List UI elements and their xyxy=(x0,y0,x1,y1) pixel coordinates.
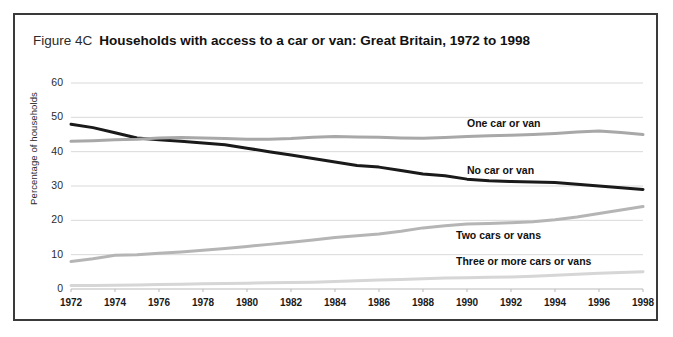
y-axis-tick-label: 40 xyxy=(37,145,63,157)
y-axis-tick-label: 20 xyxy=(37,213,63,225)
x-axis-tick-label: 1996 xyxy=(579,297,619,308)
y-axis-tick-label: 0 xyxy=(37,282,63,294)
series-label: No car or van xyxy=(467,164,534,176)
y-axis-tick-label: 10 xyxy=(37,248,63,260)
x-axis-tick-label: 1982 xyxy=(271,297,311,308)
y-axis-tick-label: 60 xyxy=(37,76,63,88)
x-axis-tick-label: 1994 xyxy=(535,297,575,308)
series-line xyxy=(71,207,643,262)
series-label: One car or van xyxy=(467,117,541,129)
series-label: Three or more cars or vans xyxy=(456,255,591,267)
x-axis-tick-label: 1984 xyxy=(315,297,355,308)
x-axis-tick-label: 1974 xyxy=(95,297,135,308)
x-axis-tick-label: 1986 xyxy=(359,297,399,308)
y-axis-tick-label: 30 xyxy=(37,179,63,191)
x-axis-tick-label: 1976 xyxy=(139,297,179,308)
series-label: Two cars or vans xyxy=(456,229,541,241)
series-line xyxy=(71,272,643,286)
x-axis-tick-label: 1972 xyxy=(51,297,91,308)
x-axis-tick-label: 1988 xyxy=(403,297,443,308)
x-axis-tick-label: 1990 xyxy=(447,297,487,308)
x-axis-tick-label: 1980 xyxy=(227,297,267,308)
x-axis-tick-label: 1998 xyxy=(623,297,663,308)
x-axis-tick-label: 1992 xyxy=(491,297,531,308)
line-chart-svg xyxy=(15,15,660,323)
x-axis-tick-label: 1978 xyxy=(183,297,223,308)
chart-plot-area: Percentage of households 0102030405060 1… xyxy=(15,15,660,323)
figure-frame: Figure 4CHouseholds with access to a car… xyxy=(13,13,658,321)
y-axis-tick-label: 50 xyxy=(37,110,63,122)
